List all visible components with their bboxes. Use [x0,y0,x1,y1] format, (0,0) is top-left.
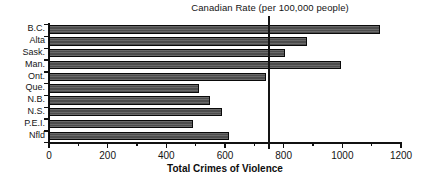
y-axis-label: B.C. [0,23,45,35]
x-axis-tick-label: 1000 [331,150,353,162]
bar-row [49,59,401,71]
x-axis-tick [48,143,49,148]
bar-row [49,118,401,130]
bar-p-e-i [49,120,193,128]
y-axis-label: N.B. [0,94,45,106]
x-axis-tick-label: 600 [217,150,234,162]
y-axis-tick [44,107,49,108]
y-axis-category-labels: B.C.AltaSask.Man.Ont.Que.N.B.N.S.P.E.I.N… [0,24,45,142]
bar-chart: Canadian Rate (per 100,000 people) B.C.A… [0,0,425,179]
x-axis-title: Total Crimes of Violence [49,162,401,175]
bar-n-b [49,96,210,104]
y-axis-label: P.E.I. [0,118,45,130]
x-axis-tick [107,143,108,148]
bar-ont [49,73,266,81]
x-axis-minor-tick [371,143,372,146]
x-axis-tick [342,143,343,148]
y-axis-tick [44,71,49,72]
y-axis-tick [44,130,49,131]
x-axis-tick-label: 200 [99,150,116,162]
x-axis-minor-tick [312,143,313,146]
y-axis-tick [44,118,49,119]
bar-b-c [49,25,380,33]
bar-row [49,130,401,142]
canadian-rate-reference-line [268,16,270,149]
x-axis-minor-tick [78,143,79,146]
x-axis-tick [283,143,284,148]
bar-row [49,36,401,48]
y-axis-label: Que. [0,82,45,94]
x-axis-tick [400,143,401,148]
bar-row [49,107,401,119]
x-axis-minor-tick [254,143,255,146]
y-axis-tick [44,59,49,60]
x-axis-minor-tick [136,143,137,146]
y-axis-tick [44,95,49,96]
bar-row [49,83,401,95]
x-axis-tick-label: 400 [158,150,175,162]
chart-title: Canadian Rate (per 100,000 people) [150,2,390,14]
x-axis-tick-label: 0 [46,150,52,162]
x-axis-tick [224,143,225,148]
bar-n-s [49,108,222,116]
y-axis-label: Man. [0,59,45,71]
y-axis-label: Nfld [0,130,45,142]
bar-man [49,61,341,69]
y-axis-tick [44,83,49,84]
y-axis-tick [44,48,49,49]
y-axis-label: N.S. [0,106,45,118]
bar-row [49,48,401,60]
y-axis-label: Ont. [0,71,45,83]
x-axis-tick-label: 1200 [390,150,412,162]
x-axis-minor-tick [195,143,196,146]
bar-que [49,84,199,92]
bar-nfld [49,132,229,140]
bar-row [49,24,401,36]
y-axis-tick [44,24,49,25]
x-axis-tick-label: 800 [275,150,292,162]
x-axis-tick [166,143,167,148]
bar-sask [49,49,285,57]
y-axis-tick [44,36,49,37]
plot-area [49,24,401,142]
bar-row [49,71,401,83]
y-axis-label: Alta [0,35,45,47]
bar-row [49,95,401,107]
y-axis-label: Sask. [0,47,45,59]
